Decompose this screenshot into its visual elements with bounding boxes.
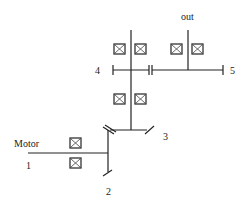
label-gear-2: 2 xyxy=(106,186,111,197)
bearing-icon xyxy=(114,94,125,104)
bearing-icon xyxy=(171,44,182,54)
label-out: out xyxy=(181,11,194,22)
gear-train-diagram: out 4 5 3 Motor 1 2 xyxy=(0,0,246,205)
label-gear-4: 4 xyxy=(95,65,100,76)
bearing-icon xyxy=(135,94,146,104)
bearing-icon xyxy=(70,158,81,168)
bevel-mesh-line-b xyxy=(105,125,116,132)
label-gear-1: 1 xyxy=(26,160,31,171)
label-motor: Motor xyxy=(14,138,40,149)
bearing-icon xyxy=(192,44,203,54)
bearing-icon xyxy=(70,138,81,148)
label-gear-5: 5 xyxy=(230,65,235,76)
label-gear-3: 3 xyxy=(163,131,168,142)
bearing-icon xyxy=(114,44,125,54)
bearing-icon xyxy=(135,44,146,54)
